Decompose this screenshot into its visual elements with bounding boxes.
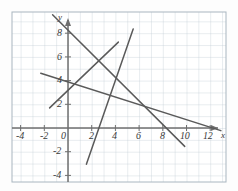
y-axis-label: y xyxy=(58,13,62,22)
x-tick-label-12: 12 xyxy=(203,131,213,141)
x-tick-label-4: 4 xyxy=(112,131,117,141)
x-tick-label-8: 8 xyxy=(160,131,165,141)
y-tick-label--2: -2 xyxy=(53,146,61,156)
y-tick-label--4: -4 xyxy=(53,170,61,180)
x-tick-label-6: 6 xyxy=(136,131,141,141)
x-axis-label: x xyxy=(221,131,225,140)
coordinate-graph: -4 -2 0 2 4 6 8 10 12 8 6 4 2 -2 -4 x y xyxy=(0,0,238,191)
y-tick-label-8: 8 xyxy=(57,28,62,38)
plot-area xyxy=(0,0,238,191)
x-tick-label--4: -4 xyxy=(16,131,24,141)
grid-lines xyxy=(12,12,226,182)
x-tick-label-2: 2 xyxy=(89,131,94,141)
y-tick-label-4: 4 xyxy=(57,75,62,85)
x-tick-label-10: 10 xyxy=(180,131,190,141)
y-tick-label-2: 2 xyxy=(57,99,62,109)
x-tick-label--2: -2 xyxy=(40,131,48,141)
origin-label: 0 xyxy=(61,131,66,141)
y-tick-label-6: 6 xyxy=(57,52,62,62)
